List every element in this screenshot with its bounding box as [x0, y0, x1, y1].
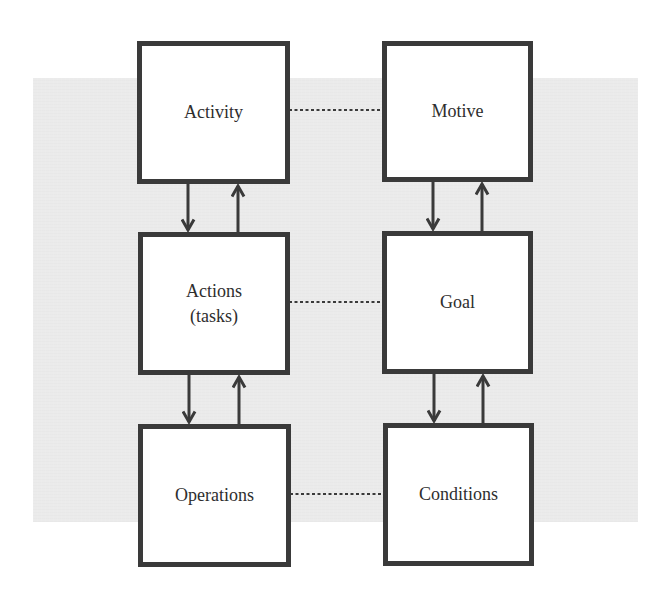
node-label: Activity — [184, 100, 243, 125]
node-activity: Activity — [137, 41, 290, 184]
node-conditions: Conditions — [383, 423, 534, 566]
node-label: Goal — [440, 290, 475, 315]
background-panel — [33, 78, 638, 522]
node-label: Actions (tasks) — [186, 279, 242, 329]
node-label: Conditions — [419, 482, 498, 507]
node-label: Motive — [432, 99, 484, 124]
node-label: Operations — [175, 483, 254, 508]
node-motive: Motive — [382, 41, 533, 182]
node-goal: Goal — [382, 231, 533, 374]
node-operations: Operations — [138, 424, 291, 567]
node-actions: Actions (tasks) — [138, 232, 290, 375]
